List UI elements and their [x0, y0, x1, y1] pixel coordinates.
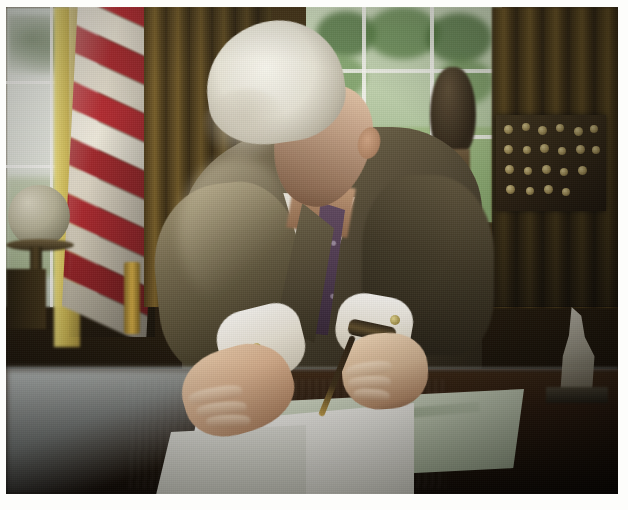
- photograph: [6, 7, 618, 494]
- window-mullion-vertical: [50, 7, 53, 307]
- suit-sunlight-highlight: [178, 157, 296, 307]
- globe: [8, 185, 70, 247]
- coin-display-board: [496, 115, 606, 211]
- tree-foliage: [426, 13, 492, 63]
- figurine-base: [546, 387, 608, 403]
- right-cufflink: [390, 315, 400, 325]
- photo-print-frame: [0, 0, 628, 510]
- brass-lamp: [124, 262, 140, 334]
- chair-leg: [6, 269, 46, 329]
- flag-shading: [69, 7, 155, 337]
